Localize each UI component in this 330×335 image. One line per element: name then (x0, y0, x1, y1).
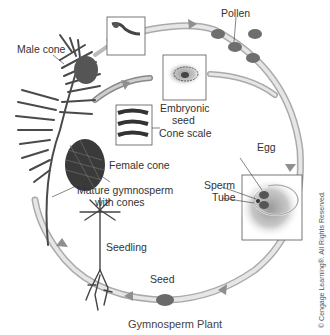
label-seed: Seed (150, 274, 175, 285)
embryonic-seed-box (163, 55, 206, 100)
diagram-title: Gymnosperm Plant (128, 318, 222, 330)
label-egg: Egg (257, 142, 276, 153)
label-sperm: Sperm (204, 180, 235, 191)
male-cone-shape (74, 56, 98, 84)
label-female-cone: Female cone (109, 160, 170, 171)
label-tube: Tube (212, 192, 236, 203)
pollen-grains (211, 29, 262, 63)
pollen-box (107, 17, 145, 55)
copyright-notice: © Cengage Learning®. All Rights Reserved… (318, 191, 325, 328)
label-pollen: Pollen (221, 8, 250, 19)
label-male-cone: Male cone (17, 44, 65, 55)
label-embryonic-seed-line1: Embryonic (160, 103, 210, 114)
gymnosperm-life-cycle-diagram: Male cone Pollen Embryonic seed Cone sca… (0, 0, 330, 335)
label-seedling: Seedling (106, 242, 147, 253)
label-mature-gymnosperm-line1: Mature gymnosperm (77, 185, 173, 196)
label-mature-gymnosperm-line2: with cones (95, 197, 145, 208)
cone-scale-box (116, 105, 152, 145)
label-cone-scale: Cone scale (159, 128, 212, 139)
label-embryonic-seed-line2: seed (172, 115, 195, 126)
seed-shape (156, 294, 174, 306)
fertilization-box (240, 175, 302, 240)
